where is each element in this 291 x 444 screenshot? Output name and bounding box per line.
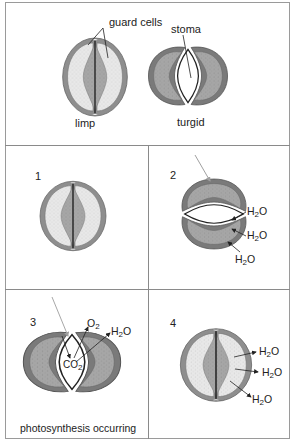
- limp-label: limp: [75, 118, 95, 129]
- guard-cells-label: guard cells: [109, 17, 162, 28]
- photosynthesis-caption: photosynthesis occurring: [20, 423, 136, 434]
- panel-3-number: 3: [30, 317, 36, 328]
- panel-3-light-arrow: [52, 297, 68, 336]
- panel-2-light-arrow: [195, 155, 210, 181]
- panel-4-number: 4: [170, 318, 176, 329]
- panel-3-oxygen: O2: [87, 318, 100, 331]
- panel-3-carbon-dioxide: CO2: [63, 360, 82, 372]
- panel-4-water-2: H2O: [262, 367, 282, 380]
- panel-3-water: H2O: [111, 326, 131, 339]
- panel-2-water-2: H2O: [247, 230, 267, 243]
- stomata-diagram: [0, 0, 291, 444]
- panel-4-water-3: H2O: [252, 394, 272, 407]
- turgid-label: turgid: [177, 117, 205, 128]
- panel-1-number: 1: [35, 171, 41, 182]
- turgid-guard-cells: [148, 47, 227, 105]
- panel-4-stoma: [180, 329, 251, 402]
- panel-4-water-1: H2O: [259, 346, 279, 359]
- panel-2-water-1: H2O: [247, 206, 267, 219]
- panel-2-stoma: [182, 179, 246, 249]
- panel-2-number: 2: [170, 170, 176, 181]
- panel-2-water-3: H2O: [235, 254, 255, 267]
- limp-guard-cells: [63, 38, 128, 116]
- stoma-label: stoma: [171, 24, 201, 35]
- panel-1-stoma: [40, 181, 106, 250]
